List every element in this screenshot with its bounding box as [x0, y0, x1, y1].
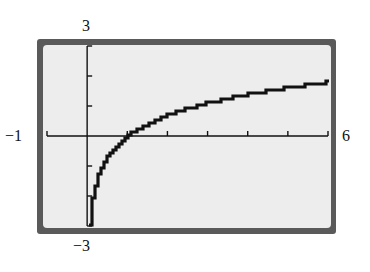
graph-plot [0, 0, 370, 272]
xmax-label: 6 [342, 128, 350, 144]
xmin-label: −1 [5, 128, 22, 144]
ymax-label: 3 [82, 18, 90, 34]
ymin-label: −3 [73, 238, 90, 254]
ln-curve [89, 81, 329, 225]
